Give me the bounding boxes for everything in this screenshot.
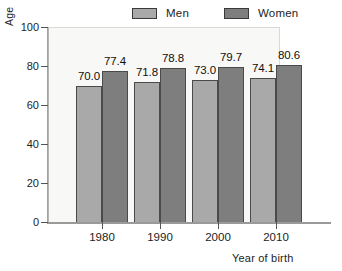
bar-women-2000 [218, 67, 244, 222]
x-tick-mark [160, 222, 161, 229]
y-tick-label: 40 [27, 138, 39, 150]
y-tick-label: 60 [27, 99, 39, 111]
x-tick-mark [102, 222, 103, 229]
x-tick-label: 1990 [147, 231, 173, 243]
y-tick-label: 80 [27, 60, 39, 72]
bar-men-2010 [250, 78, 276, 222]
x-tick-label: 1980 [89, 231, 115, 243]
bar-men-2000 [192, 80, 218, 222]
bar-women-1980 [102, 71, 128, 222]
bar-value-label: 79.7 [220, 51, 242, 63]
x-tick-label: 2000 [205, 231, 231, 243]
bar-women-2010 [276, 65, 302, 222]
y-tick-mark [41, 144, 48, 145]
legend-label-women: Women [258, 7, 298, 19]
chart-legend: Men Women [0, 4, 342, 24]
bar-value-label: 77.4 [104, 55, 126, 67]
bar-men-1990 [134, 82, 160, 222]
legend-entry-men: Men [132, 4, 189, 22]
y-tick-mark [41, 66, 48, 67]
life-expectancy-bar-chart: Men Women Age Year of birth 020406080100… [0, 0, 342, 271]
bar-value-label: 73.0 [194, 64, 216, 76]
x-axis-title: Year of birth [232, 252, 294, 264]
x-axis-line [47, 222, 331, 224]
x-tick-label: 2010 [263, 231, 289, 243]
legend-label-men: Men [166, 7, 189, 19]
bar-value-label: 80.6 [278, 49, 300, 61]
legend-swatch-men-icon [132, 8, 157, 19]
y-tick-mark [41, 222, 48, 223]
y-tick-mark [41, 27, 48, 28]
bar-value-label: 70.0 [78, 70, 100, 82]
y-tick-mark [41, 183, 48, 184]
y-tick-label: 0 [33, 216, 39, 228]
y-tick-label: 20 [27, 177, 39, 189]
y-axis-line [47, 27, 48, 223]
legend-entry-women: Women [224, 4, 298, 22]
bar-value-label: 78.8 [162, 52, 184, 64]
bar-women-1990 [160, 68, 186, 222]
y-tick-label: 100 [21, 21, 39, 33]
bar-value-label: 74.1 [252, 62, 274, 74]
x-tick-mark [276, 222, 277, 229]
y-axis-title: Age [3, 7, 15, 26]
legend-swatch-women-icon [224, 8, 249, 19]
bar-men-1980 [76, 86, 102, 223]
y-tick-mark [41, 105, 48, 106]
bar-value-label: 71.8 [136, 66, 158, 78]
x-tick-mark [218, 222, 219, 229]
